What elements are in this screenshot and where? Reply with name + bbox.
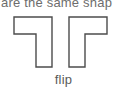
left-l-shape: [14, 17, 52, 67]
flip-label: flip: [0, 72, 127, 88]
figure-canvas: are the same shap flip: [0, 0, 127, 96]
right-l-shape: [69, 17, 107, 67]
